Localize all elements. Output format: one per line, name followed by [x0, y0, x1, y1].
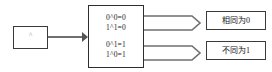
operator-box: ^: [13, 26, 48, 49]
truth-table-box: 0^0=0 1^1=0 0^1=1 1^0=1: [88, 5, 144, 68]
truth-table-line: 1^0=1: [106, 50, 126, 60]
truth-table-line: 1^1=0: [106, 23, 126, 33]
xor-operator-symbol: ^: [28, 33, 32, 40]
truth-table-group-same: 0^0=0 1^1=0: [106, 13, 126, 33]
diagram-canvas: ^ 0^0=0 1^1=0 0^1=1 1^0=1 相同为0 不同为1: [0, 0, 272, 72]
result-box-same: 相同为0: [206, 11, 266, 30]
result-label: 不同为1: [222, 46, 250, 56]
result-box-different: 不同为1: [206, 41, 266, 60]
table-to-result-block-arrow-icon: [144, 44, 206, 62]
table-to-result-block-arrow-icon: [144, 14, 206, 32]
truth-table-line: 0^1=1: [106, 40, 126, 50]
truth-table-line: 0^0=0: [106, 13, 126, 23]
result-label: 相同为0: [222, 16, 250, 26]
truth-table-group-diff: 0^1=1 1^0=1: [106, 40, 126, 60]
operator-to-table-connector-line: [48, 36, 86, 38]
